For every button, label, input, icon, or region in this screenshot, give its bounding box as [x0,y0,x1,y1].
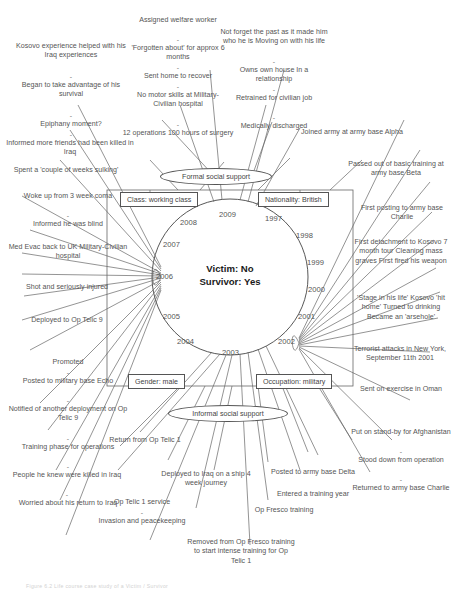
note-stage-in-life: 'Stage in his life' Kosovo 'hit home' Tu… [348,294,454,322]
note-separator: - [4,491,130,498]
note-terrorist-attacks: Terrorist attacks in New York, September… [348,345,452,364]
note-fresco-training: Op Fresco training [238,506,330,515]
note-med-evac: Med Evac back to UK Military-Civilian ho… [8,243,128,262]
note-entered-training-year: Entered a training year [264,490,362,499]
note-sent-oman: Sent on exercise in Oman [352,385,450,394]
note-epiphany: Epiphany moment? [16,120,126,129]
informal-social-support-ellipse[interactable]: Informal social support [168,405,288,422]
figure-caption: Figure 6.2 Life course case study of a V… [26,583,168,589]
note-return-telic1: Return from Op Telic 1 [108,436,182,445]
year-2006: 2006 [156,272,173,281]
year-2003: 2003 [222,348,239,357]
note-separator: - [6,212,130,219]
note-separator: - [222,86,326,93]
note-separator: - [128,36,228,43]
note-shot-injured: Shot and seriously injured [10,283,124,292]
note-separator: - [18,369,118,376]
note-informed-friends-killed: Informed more friends had been killed in… [6,139,134,158]
life-course-diagram: Victim: No Survivor: Yes 1997 1998 1999 … [0,0,455,595]
note-notified-deployment: Notified of another deployment on Op Tel… [8,405,128,424]
formal-social-support-ellipse[interactable]: Formal social support [160,168,272,185]
year-2004: 2004 [177,337,194,346]
year-1999: 1999 [307,258,324,267]
note-people-killed: People he knew were killed in Iraq [4,471,130,480]
note-separator: - [10,463,126,470]
note-joined-army: Joined army at army base Alpha [300,128,404,137]
note-removed-fresco: Removed from Op Fresco training to start… [186,538,296,566]
year-2001: 2001 [298,312,315,321]
note-weeks-sulking: Spent a 'couple of weeks sulking' [10,166,122,175]
note-forgotten-about: 'Forgotten about' for approx 6 months [126,44,230,63]
class-box[interactable]: Class: working class [120,192,198,207]
note-retrained: Retrained for civilian job [226,94,322,103]
year-2005: 2005 [163,312,180,321]
year-1998: 1998 [296,231,313,240]
note-passed-basic: Passed out of basic training at army bas… [340,160,452,179]
note-sent-home: Sent home to recover [124,72,232,81]
note-kosovo-helped: Kosovo experience helped with his Iraq e… [12,42,130,61]
note-deployed-ship: Deployed to Iraq on a ship 4 week journe… [158,470,254,489]
note-posted-echo: Posted to military base Echo [12,377,124,386]
note-separator: - [348,448,454,455]
note-not-forget-past: Not forget the past as it made him who h… [216,28,332,47]
year-1997: 1997 [265,214,282,223]
year-2002: 2002 [278,337,295,346]
year-2009: 2009 [219,210,236,219]
note-separator: - [16,131,126,138]
note-separator: - [216,58,332,65]
victim-status: Victim: No [206,263,253,274]
note-began-advantage: Began to take advantage of his survival [18,81,124,100]
note-separator: - [350,476,452,483]
note-telic1-service: Op Telic 1 service [96,498,188,507]
note-first-detachment: First detachment to Kosovo 7 month tour … [348,238,454,266]
note-stood-down: Stood down from operation [350,456,452,465]
year-2008: 2008 [180,218,197,227]
survivor-status: Survivor: Yes [199,276,260,287]
gender-box[interactable]: Gender: male [128,374,185,389]
note-no-motor-skills: No motor skills at Military-Civilian hos… [126,91,230,110]
note-promoted: Promoted [18,358,118,367]
note-deployed-telic9: Deployed to Op Telic 9 [6,316,128,325]
year-2007: 2007 [163,240,180,249]
note-assigned-welfare: Assigned welfare worker [128,16,228,25]
note-returned-charlie: Returned to army base Charlie [350,484,452,493]
note-informed-blind: Informed he was blind [4,220,132,229]
year-2000: 2000 [308,285,325,294]
center-status: Victim: No Survivor: Yes [180,263,280,288]
note-separator: - [124,83,232,90]
note-woke-coma: Woke up from 3 week coma [6,192,130,201]
note-separator: - [226,114,322,121]
note-separator: - [12,73,130,80]
note-owns-house: Owns own house In a relationship [222,66,326,85]
note-first-posting: First posting to army base Charlie [352,204,452,223]
note-standby-afghanistan: Put on stand-by for Afghanistan [348,428,454,437]
note-separator: - [96,509,188,516]
note-separator: - [18,112,124,119]
note-posted-delta: Posted to army base Delta [266,468,360,477]
occupation-box[interactable]: Occupation: military [256,374,332,389]
note-separator: - [12,397,124,404]
note-invasion-peacekeeping: Invasion and peacekeeping [96,517,188,526]
nationality-box[interactable]: Nationality: British [258,192,329,207]
note-separator: - [126,64,230,71]
